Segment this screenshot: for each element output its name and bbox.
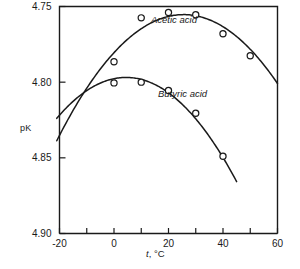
curve-acetic-acid (57, 15, 278, 141)
x-tick-label--20: -20 (52, 238, 67, 249)
x-tick-label-20: 20 (163, 238, 175, 249)
y-tick-label-4.80: 4.80 (32, 77, 52, 88)
curve-butyric-acid (57, 77, 237, 181)
data-point-acetic-acid-4 (220, 31, 226, 37)
data-point-butyric-acid-4 (220, 153, 226, 159)
y-tick-label-4.85: 4.85 (32, 152, 52, 163)
data-point-acetic-acid-5 (247, 53, 253, 59)
data-point-butyric-acid-1 (138, 79, 144, 85)
series-label-acetic-acid: Acetic acid (151, 14, 197, 25)
chart-figure: -2002040604.754.804.854.90 pK t, °C Acet… (0, 0, 300, 269)
series-label-butyric-acid: Butyric acid (158, 88, 207, 99)
x-axis-label-units: , °C (149, 248, 165, 259)
y-tick-label-4.75: 4.75 (32, 1, 52, 12)
x-axis-label: t, °C (146, 248, 165, 259)
plot-area: -2002040604.754.804.854.90 (0, 0, 300, 269)
x-tick-label-0: 0 (111, 238, 117, 249)
x-tick-label-40: 40 (217, 238, 229, 249)
data-point-butyric-acid-0 (111, 80, 117, 86)
y-tick-label-4.90: 4.90 (32, 228, 52, 239)
data-point-acetic-acid-0 (111, 59, 117, 65)
data-point-acetic-acid-1 (138, 15, 144, 21)
plot-frame (60, 7, 278, 234)
y-axis-label: pK (20, 123, 31, 133)
data-point-butyric-acid-3 (193, 110, 199, 116)
x-tick-label-60: 60 (272, 238, 284, 249)
